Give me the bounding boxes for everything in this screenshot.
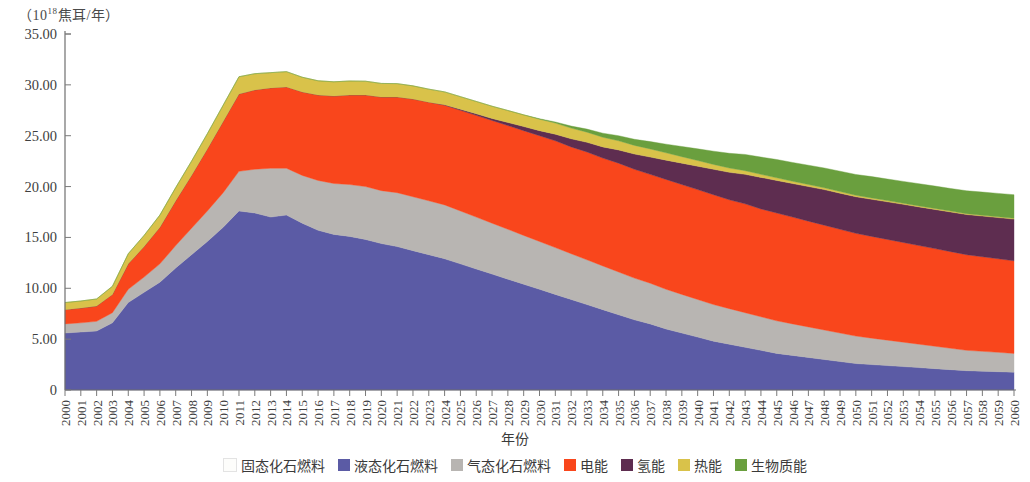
x-tick-label: 2048: [817, 400, 832, 426]
x-tick-label: 2060: [1007, 400, 1022, 426]
x-tick-label: 2004: [121, 400, 136, 427]
x-tick-label: 2039: [675, 400, 690, 426]
x-tick-label: 2007: [169, 400, 184, 427]
legend-swatch: [564, 459, 576, 471]
x-tick-label: 2030: [533, 400, 548, 426]
x-tick-label: 2036: [627, 400, 642, 427]
y-tick-label: 5.00: [32, 331, 57, 347]
x-tick-label: 2053: [896, 400, 911, 426]
x-tick-label: 2035: [612, 400, 627, 426]
x-tick-label: 2055: [928, 400, 943, 426]
chart-svg: 05.0010.0015.0020.0025.0030.0035.00 2000…: [0, 0, 1030, 445]
x-tick-label: 2032: [564, 400, 579, 426]
x-axis-title: 年份: [0, 428, 1030, 448]
x-tick-label: 2010: [216, 400, 231, 426]
x-tick-label: 2056: [944, 400, 959, 427]
x-tick-label: 2043: [738, 400, 753, 426]
chart-page: （1018焦耳/年） 05.0010.0015.0020.0025.0030.0…: [0, 0, 1030, 482]
legend-swatch: [621, 459, 633, 471]
x-tick-label: 2038: [659, 400, 674, 426]
legend-swatch: [338, 459, 350, 471]
x-tick-label: 2025: [453, 400, 468, 426]
legend-label: 液态化石燃料: [354, 455, 438, 475]
legend-item-固态化石燃料[interactable]: 固态化石燃料: [223, 455, 325, 475]
x-tick-label: 2047: [801, 400, 816, 427]
x-tick-label: 2034: [596, 400, 611, 427]
y-tick-label: 30.00: [24, 77, 57, 93]
x-tick-label: 2012: [248, 400, 263, 426]
x-tick-label: 2003: [105, 400, 120, 426]
x-tick-label: 2037: [643, 400, 658, 427]
legend-item-生物质能[interactable]: 生物质能: [735, 455, 807, 475]
x-tick-label: 2015: [295, 400, 310, 426]
x-tick-label: 2002: [90, 400, 105, 426]
legend-item-氢能[interactable]: 氢能: [621, 455, 665, 475]
chart-legend: 固态化石燃料液态化石燃料气态化石燃料电能氢能热能生物质能: [0, 455, 1030, 475]
x-tick-label: 2022: [406, 400, 421, 426]
x-tick-label: 2000: [58, 400, 73, 426]
legend-item-电能[interactable]: 电能: [564, 455, 608, 475]
x-tick-label: 2019: [359, 400, 374, 426]
x-tick-label: 2044: [754, 400, 769, 427]
x-tick-label: 2026: [469, 400, 484, 427]
x-tick-label: 2023: [422, 400, 437, 426]
area-series-group: [65, 72, 1014, 390]
x-tick-label: 2031: [548, 400, 563, 426]
x-tick-label: 2024: [438, 400, 453, 427]
legend-item-液态化石燃料[interactable]: 液态化石燃料: [338, 455, 438, 475]
x-tick-label: 2009: [200, 400, 215, 426]
x-tick-label: 2011: [232, 400, 247, 426]
legend-item-气态化石燃料[interactable]: 气态化石燃料: [451, 455, 551, 475]
x-tick-label: 2052: [880, 400, 895, 426]
y-axis: 05.0010.0015.0020.0025.0030.0035.00: [24, 26, 71, 398]
legend-item-热能[interactable]: 热能: [678, 455, 722, 475]
stacked-area-chart: 05.0010.0015.0020.0025.0030.0035.00 2000…: [0, 0, 1030, 445]
y-tick-label: 35.00: [24, 26, 57, 42]
x-tick-label: 2028: [501, 400, 516, 426]
legend-swatch: [451, 459, 463, 471]
x-tick-label: 2057: [960, 400, 975, 427]
legend-label: 固态化石燃料: [241, 455, 325, 475]
y-tick-label: 0: [50, 382, 57, 398]
x-tick-label: 2059: [991, 400, 1006, 426]
x-tick-label: 2014: [279, 400, 294, 427]
x-tick-label: 2051: [865, 400, 880, 426]
x-tick-label: 2049: [833, 400, 848, 426]
x-tick-label: 2013: [264, 400, 279, 426]
x-tick-label: 2040: [691, 400, 706, 426]
x-tick-label: 2021: [390, 400, 405, 426]
x-tick-label: 2058: [975, 400, 990, 426]
x-axis: 2000200120022003200420052006200720082009…: [58, 390, 1022, 426]
x-tick-label: 2018: [343, 400, 358, 426]
legend-label: 热能: [694, 455, 722, 475]
x-tick-label: 2046: [786, 400, 801, 427]
y-tick-label: 15.00: [24, 229, 57, 245]
y-tick-label: 20.00: [24, 179, 57, 195]
legend-label: 氢能: [637, 455, 665, 475]
x-tick-label: 2017: [327, 400, 342, 427]
x-tick-label: 2001: [74, 400, 89, 426]
x-tick-label: 2041: [706, 400, 721, 426]
y-tick-label: 10.00: [24, 280, 57, 296]
legend-swatch: [678, 459, 690, 471]
x-tick-label: 2050: [849, 400, 864, 426]
x-tick-label: 2033: [580, 400, 595, 426]
x-tick-label: 2045: [770, 400, 785, 426]
x-tick-label: 2027: [485, 400, 500, 427]
legend-label: 电能: [580, 455, 608, 475]
legend-label: 生物质能: [751, 455, 807, 475]
x-tick-label: 2008: [185, 400, 200, 426]
legend-swatch: [735, 459, 747, 471]
x-tick-label: 2020: [374, 400, 389, 426]
x-tick-label: 2042: [722, 400, 737, 426]
x-tick-label: 2005: [137, 400, 152, 426]
x-tick-label: 2016: [311, 400, 326, 427]
legend-label: 气态化石燃料: [467, 455, 551, 475]
x-tick-label: 2054: [912, 400, 927, 427]
y-tick-label: 25.00: [24, 128, 57, 144]
x-tick-label: 2029: [517, 400, 532, 426]
x-tick-label: 2006: [153, 400, 168, 427]
legend-swatch: [223, 458, 237, 472]
